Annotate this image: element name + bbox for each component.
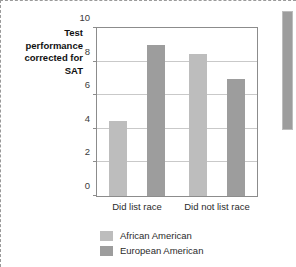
y-axis-tick [93,61,97,62]
x-axis-category-label: Did list race [112,201,162,212]
bar [227,79,245,196]
y-axis-tick-label: 8 [85,45,90,56]
bar [147,45,165,196]
y-axis-tick [93,195,97,196]
scrollbar-thumb[interactable] [282,11,293,130]
legend-item: European American [100,244,203,257]
y-axis-tick [93,27,97,28]
y-axis-tick [93,94,97,95]
legend-swatch-icon [100,231,113,241]
legend-item: African American [100,229,203,242]
y-axis-tick-label: 4 [85,112,90,123]
y-axis-tick-label: 2 [85,146,90,157]
gridline [97,61,257,62]
y-axis-tick-label: 0 [85,180,90,191]
y-axis-tick-label: 10 [79,12,90,23]
bar [189,54,207,196]
bar [109,121,127,196]
y-axis-tick [93,128,97,129]
plot-area: 0246810 [96,27,258,197]
legend-item-label: European American [120,245,203,256]
chart-legend: African AmericanEuropean American [100,229,203,259]
legend-swatch-icon [100,246,113,256]
y-axis-title: Test performance corrected for SAT [11,27,83,77]
y-axis-tick [93,161,97,162]
y-axis-tick-label: 6 [85,79,90,90]
legend-item-label: African American [120,230,192,241]
x-axis-category-label: Did not list race [184,201,249,212]
figure-container: Test performance corrected for SAT 02468… [0,0,296,267]
